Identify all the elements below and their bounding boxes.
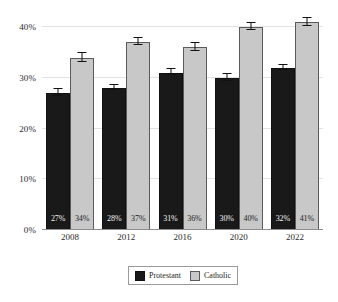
error-bar-cap-top [302,17,311,18]
bar-value-label: 30% [216,214,238,223]
bar-group: 32%41% [271,17,319,230]
plot-area: 27%34%28%37%31%36%30%40%32%41% [42,17,323,230]
bar-value-label: 27% [47,214,69,223]
error-bar-cap-bottom [166,74,175,75]
bar-value-label: 31% [160,214,182,223]
error-bar-cap-top [110,84,119,85]
error-bar-cap-top [166,68,175,69]
bar-value-label: 32% [272,214,294,223]
error-bar-cap-top [134,37,143,38]
error-bar-cap-top [78,52,87,53]
x-axis-tick-label: 2008 [61,232,79,242]
bar-protestant-2016: 31% [159,73,183,230]
error-bar-cap-bottom [190,50,199,51]
error-bar [190,42,199,51]
x-axis-tick-label: 2012 [117,232,135,242]
bar-value-label: 37% [127,214,149,223]
bar-value-label: 40% [240,214,262,223]
error-bar-cap-bottom [222,80,231,81]
x-axis: 20082012201620202022 [42,232,323,248]
bar-catholic-2016: 36% [183,47,207,230]
legend-swatch-icon [190,271,200,281]
bar-chart: 27%34%28%37%31%36%30%40%32%41% 0%10%20%3… [0,0,338,302]
legend-entry-catholic[interactable]: Catholic [190,271,231,281]
error-bar [222,73,231,81]
error-bar [166,68,175,75]
bar-catholic-2008: 34% [70,58,94,230]
bar-value-label: 34% [71,214,93,223]
bar-value-label: 36% [184,214,206,223]
error-bar-cap-top [278,64,287,65]
error-bar [54,88,63,96]
bar-group: 28%37% [102,17,150,230]
error-bar-cap-top [190,42,199,43]
bar-protestant-2008: 27% [46,93,70,230]
y-axis: 0%10%20%30%40% [0,0,42,230]
bar-value-label: 28% [103,214,125,223]
error-bar-cap-bottom [278,69,287,70]
bar-protestant-2012: 28% [102,88,126,230]
bar-catholic-2020: 40% [239,27,263,230]
chart-legend: ProtestantCatholic [128,266,238,285]
error-bar-cap-top [246,22,255,23]
error-bar [110,84,119,89]
y-axis-tick-label: 10% [19,174,36,184]
x-axis-tick-label: 2022 [286,232,304,242]
y-axis-tick-label: 30% [19,73,36,83]
x-axis-tick-label: 2020 [230,232,248,242]
bar-catholic-2012: 37% [126,42,150,230]
error-bar-cap-bottom [110,89,119,90]
legend-entry-protestant[interactable]: Protestant [135,271,181,281]
error-bar-cap-top [54,88,63,89]
legend-label: Protestant [149,271,181,280]
error-bar-cap-top [222,73,231,74]
error-bar-cap-bottom [134,44,143,45]
bar-value-label: 41% [296,214,318,223]
error-bar-cap-bottom [302,25,311,26]
y-axis-tick-label: 0% [24,225,36,235]
error-bar-cap-bottom [78,61,87,62]
bar-group: 30%40% [215,17,263,230]
x-axis-tick-label: 2016 [174,232,192,242]
x-axis-baseline [42,229,323,230]
bar-protestant-2020: 30% [215,78,239,230]
error-bar [278,64,287,70]
y-axis-tick-label: 40% [19,22,36,32]
bar-group: 31%36% [159,17,207,230]
bar-protestant-2022: 32% [271,68,295,230]
y-axis-tick-label: 20% [19,124,36,134]
error-bar [246,22,255,30]
bar-catholic-2022: 41% [295,22,319,230]
bar-group: 27%34% [46,17,94,230]
error-bar-cap-bottom [246,29,255,30]
error-bar [134,37,143,45]
error-bar-cap-bottom [54,95,63,96]
error-bar [302,17,311,26]
legend-label: Catholic [204,271,231,280]
legend-swatch-icon [135,271,145,281]
error-bar [78,52,87,62]
